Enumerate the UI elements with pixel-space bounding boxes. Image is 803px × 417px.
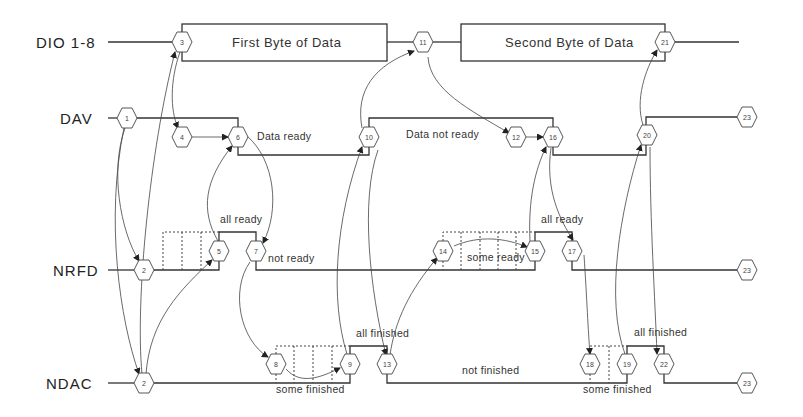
- annotation-data-ready: Data ready: [257, 130, 312, 142]
- event-node-13: 13: [377, 354, 397, 374]
- signal-label-ndac: NDAC: [46, 375, 93, 392]
- event-node-22: 22: [654, 354, 674, 374]
- event-node-label: 23: [743, 114, 751, 121]
- event-node-label: 11: [419, 39, 426, 46]
- event-node-label: 1: [125, 115, 129, 122]
- event-node-5: 5: [209, 241, 229, 261]
- annotation-data-not-ready: Data not ready: [406, 128, 480, 140]
- event-node-4: 4: [172, 127, 192, 147]
- event-node-label: 4: [180, 134, 184, 141]
- event-node-label: 18: [586, 361, 594, 368]
- nrfd-waveform: [108, 232, 737, 270]
- event-node-9: 9: [340, 354, 360, 374]
- annotation-some-ready: some ready: [467, 251, 525, 263]
- event-node-label: 5: [217, 248, 221, 255]
- event-node-20: 20: [637, 125, 657, 145]
- event-node-23: 23: [737, 107, 757, 127]
- event-node-3: 3: [172, 32, 192, 52]
- event-node-16: 16: [543, 127, 563, 147]
- annotation-not-ready: not ready: [268, 252, 315, 264]
- event-node-19: 19: [617, 354, 637, 374]
- event-node-10: 10: [359, 127, 379, 147]
- event-node-17: 17: [562, 241, 582, 261]
- event-node-label: 10: [365, 134, 373, 141]
- event-node-label: 16: [549, 134, 557, 141]
- event-node-label: 15: [531, 248, 539, 255]
- event-node-8: 8: [266, 354, 286, 374]
- event-node-7: 7: [246, 241, 266, 261]
- annotation-all-ready-1: all ready: [220, 213, 263, 225]
- event-node-label: 14: [439, 248, 447, 255]
- annotation-some-finished-2: some finished: [583, 383, 652, 395]
- signal-label-nrfd: NRFD: [53, 262, 99, 279]
- annotation-all-finished-1: all finished: [356, 327, 409, 339]
- event-node-label: 13: [383, 361, 391, 368]
- signal-label-dav: DAV: [60, 110, 93, 127]
- event-node-label: 3: [180, 39, 184, 46]
- signal-label-dio: DIO 1-8: [36, 34, 96, 51]
- annotation-all-finished-2: all finished: [634, 326, 687, 338]
- event-node-2: 2: [134, 373, 154, 393]
- event-node-label: 23: [743, 267, 751, 274]
- event-node-23: 23: [737, 373, 757, 393]
- event-node-label: 9: [348, 361, 352, 368]
- event-node-label: 19: [623, 361, 631, 368]
- event-node-2: 2: [134, 260, 154, 280]
- timing-diagram: DIO 1-8 DAV NRFD NDAC First Byte of Data…: [0, 0, 803, 417]
- event-node-14: 14: [433, 241, 453, 261]
- event-node-1: 1: [117, 108, 137, 128]
- event-node-label: 6: [236, 134, 240, 141]
- event-node-label: 23: [743, 380, 751, 387]
- event-node-label: 21: [661, 39, 669, 46]
- event-node-label: 7: [254, 248, 258, 255]
- event-nodes: 1223456789101112131415161718192021222323…: [117, 32, 757, 393]
- event-node-15: 15: [525, 241, 545, 261]
- event-node-6: 6: [228, 127, 248, 147]
- first-byte-label: First Byte of Data: [232, 35, 342, 50]
- event-node-label: 20: [643, 132, 651, 139]
- annotation-not-finished: not finished: [462, 364, 519, 376]
- event-node-11: 11: [413, 32, 433, 52]
- event-node-label: 22: [660, 361, 668, 368]
- event-node-23: 23: [737, 260, 757, 280]
- ndac-waveform: [108, 346, 737, 383]
- event-node-label: 2: [142, 267, 146, 274]
- event-node-21: 21: [655, 32, 675, 52]
- event-node-label: 17: [568, 248, 576, 255]
- event-node-label: 2: [142, 380, 146, 387]
- event-node-18: 18: [580, 354, 600, 374]
- annotation-all-ready-2: all ready: [541, 213, 584, 225]
- annotation-some-finished-1: some finished: [276, 383, 345, 395]
- event-node-label: 8: [274, 361, 278, 368]
- second-byte-label: Second Byte of Data: [505, 35, 634, 50]
- event-node-label: 12: [512, 134, 520, 141]
- event-node-12: 12: [506, 127, 526, 147]
